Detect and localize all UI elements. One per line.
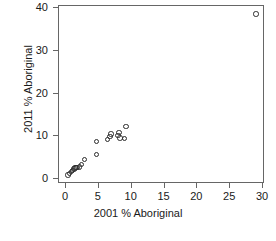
x-tick-label: 15 bbox=[157, 190, 169, 202]
x-tick-label: 0 bbox=[62, 190, 68, 202]
x-tick-label: 30 bbox=[256, 190, 268, 202]
data-point bbox=[122, 136, 127, 141]
x-tick bbox=[196, 183, 197, 188]
x-tick-label: 5 bbox=[95, 190, 101, 202]
y-tick bbox=[53, 135, 58, 136]
y-tick bbox=[53, 178, 58, 179]
y-axis-title: 2011 % Aboriginal bbox=[22, 14, 34, 164]
y-tick bbox=[53, 93, 58, 94]
x-tick bbox=[229, 183, 230, 188]
x-tick bbox=[65, 183, 66, 188]
y-tick bbox=[53, 7, 58, 8]
scatter-plot: 2001 % Aboriginal 2011 % Aboriginal 0510… bbox=[0, 0, 276, 241]
x-tick-label: 25 bbox=[223, 190, 235, 202]
x-axis-title: 2001 % Aboriginal bbox=[0, 207, 276, 219]
x-tick bbox=[262, 183, 263, 188]
x-tick bbox=[164, 183, 165, 188]
data-point bbox=[108, 131, 113, 136]
x-tick-label: 10 bbox=[125, 190, 137, 202]
x-tick bbox=[98, 183, 99, 188]
plot-frame bbox=[58, 5, 264, 183]
data-point bbox=[253, 11, 258, 16]
y-tick bbox=[53, 50, 58, 51]
x-tick bbox=[131, 183, 132, 188]
x-tick-label: 20 bbox=[190, 190, 202, 202]
